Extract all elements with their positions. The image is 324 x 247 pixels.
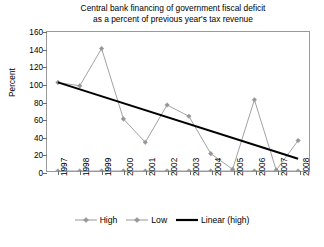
series-high	[56, 46, 301, 171]
x-axis-tick-mark	[234, 171, 235, 175]
legend-swatch-line	[176, 215, 198, 225]
data-point-marker	[77, 84, 82, 89]
plot-area: 020406080100120140160	[46, 31, 310, 172]
x-axis-tick-mark	[168, 171, 169, 175]
x-axis-tick-mark	[58, 171, 59, 175]
x-axis-tick-mark	[300, 171, 301, 175]
chart-title-line-1: Central bank financing of government fis…	[28, 3, 318, 14]
y-axis-tick-mark	[43, 155, 47, 156]
x-axis-tick-mark	[124, 171, 125, 175]
plot-svg	[47, 32, 309, 171]
x-axis-tick-label: 2003	[192, 158, 201, 176]
data-point-marker	[135, 217, 140, 222]
y-axis-tick-label: 80	[17, 98, 43, 107]
x-axis-tick-mark	[102, 171, 103, 175]
y-axis-tick-mark	[43, 173, 47, 174]
chart-container: Central bank financing of government fis…	[0, 0, 324, 247]
legend-item-label: Linear (high)	[201, 216, 249, 225]
x-axis-tick-label: 2002	[170, 158, 179, 176]
x-axis-tick-mark	[146, 171, 147, 175]
x-axis-tick-mark	[256, 171, 257, 175]
data-point-marker	[165, 103, 170, 108]
y-axis-tick-label: 120	[17, 63, 43, 72]
y-axis-tick-mark	[43, 67, 47, 68]
legend-item[interactable]: High	[75, 215, 118, 225]
y-axis-tick-mark	[43, 85, 47, 86]
legend-item[interactable]: Linear (high)	[176, 215, 249, 225]
x-axis-tick-label: 2008	[302, 158, 311, 176]
x-axis-tick-label: 1998	[82, 158, 91, 176]
chart-legend: HighLowLinear (high)	[0, 215, 324, 225]
y-axis-tick-mark	[43, 32, 47, 33]
y-axis-tick-label: 20	[17, 151, 43, 160]
x-axis-tick-label: 1999	[104, 158, 113, 176]
y-axis-tick-label: 100	[17, 80, 43, 89]
data-point-marker	[187, 114, 192, 119]
legend-swatch-line-marker	[75, 215, 97, 225]
data-point-marker	[83, 217, 88, 222]
x-axis-tick-mark	[80, 171, 81, 175]
y-axis-tick-label: 60	[17, 116, 43, 125]
x-axis-tick-label: 2007	[280, 158, 289, 176]
y-axis-tick-label: 0	[17, 169, 43, 178]
y-axis-tick-label: 160	[17, 28, 43, 37]
x-axis-tick-label: 2004	[214, 158, 223, 176]
legend-item-label: Low	[151, 216, 167, 225]
data-point-marker	[252, 97, 257, 102]
legend-item[interactable]: Low	[126, 215, 167, 225]
x-axis-tick-label: 1997	[60, 158, 69, 176]
trendline-linear-high	[58, 82, 298, 158]
x-axis-tick-mark	[212, 171, 213, 175]
y-axis-tick-mark	[43, 120, 47, 121]
series-line	[58, 49, 298, 171]
x-axis-tick-label: 2001	[148, 158, 157, 176]
y-axis-tick-mark	[43, 138, 47, 139]
y-axis-tick-mark	[43, 103, 47, 104]
legend-item-label: High	[100, 216, 118, 225]
legend-swatch-line-marker	[126, 215, 148, 225]
y-axis-tick-mark	[43, 50, 47, 51]
x-axis-tick-label: 2000	[126, 158, 135, 176]
x-axis-tick-mark	[278, 171, 279, 175]
chart-title: Central bank financing of government fis…	[28, 3, 318, 25]
y-axis-tick-label: 140	[17, 45, 43, 54]
y-axis-title: Percent	[8, 48, 17, 118]
y-axis-tick-label: 40	[17, 133, 43, 142]
x-axis-tick-label: 2005	[236, 158, 245, 176]
chart-title-line-2: as a percent of previous year's tax reve…	[28, 14, 318, 25]
x-axis-tick-mark	[190, 171, 191, 175]
data-point-marker	[99, 46, 104, 51]
series-linear-high-	[58, 82, 298, 158]
x-axis-tick-label: 2006	[258, 158, 267, 176]
